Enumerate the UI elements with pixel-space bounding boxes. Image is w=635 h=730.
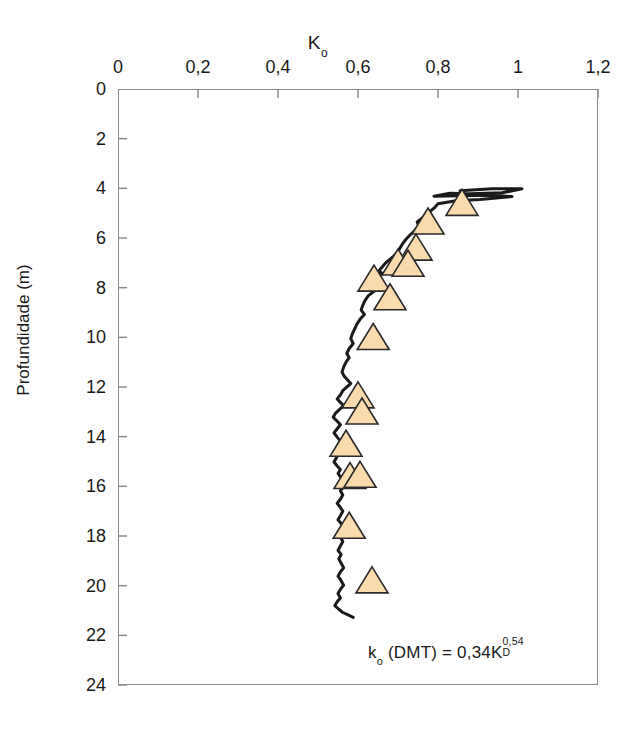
y-tick-label: 20 [56,575,106,596]
equation-annotation: ko (DMT) = 0,34K0,54D [368,641,504,664]
equation-subscript: D [503,646,511,658]
equation-lead-sub: o [377,655,383,667]
y-tick-label: 8 [56,277,106,298]
y-tick-label: 4 [56,178,106,199]
x-tick-label: 1 [513,57,523,78]
y-tick-label: 18 [56,526,106,547]
x-axis-title-sub: o [321,46,328,60]
y-tick-label: 2 [56,128,106,149]
equation-lead: k [368,643,377,662]
y-tick-label: 10 [56,327,106,348]
x-axis-title: Ko [0,32,635,57]
chart-figure: Ko Profundidade (m) 00,20,40,60,811,2 02… [0,0,635,730]
y-tick-label: 22 [56,625,106,646]
y-tick-label: 24 [56,675,106,696]
x-tick-label: 1,2 [585,57,610,78]
equation-exponent-group: 0,54D [503,641,504,658]
x-tick-label: 0,6 [345,57,370,78]
y-tick-label: 16 [56,476,106,497]
y-tick-label: 12 [56,377,106,398]
y-tick-label: 14 [56,426,106,447]
x-tick-label: 0,8 [425,57,450,78]
x-axis-title-main: K [308,32,321,53]
x-tick-label: 0,4 [265,57,290,78]
plot-area [118,89,598,685]
y-tick-label: 6 [56,228,106,249]
x-tick-label: 0 [113,57,123,78]
equation-mid: (DMT) = 0,34K [383,643,502,662]
y-tick-label: 0 [56,79,106,100]
y-axis-title: Profundidade (m) [14,220,34,440]
x-tick-label: 0,2 [185,57,210,78]
